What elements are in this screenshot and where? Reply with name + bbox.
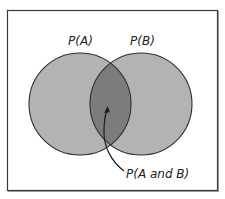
set-a-label: P(A) bbox=[68, 34, 93, 48]
venn-diagram: P(A) P(B) P(A and B) bbox=[0, 0, 225, 199]
intersection-label: P(A and B) bbox=[126, 167, 189, 181]
set-b-label: P(B) bbox=[130, 34, 155, 48]
